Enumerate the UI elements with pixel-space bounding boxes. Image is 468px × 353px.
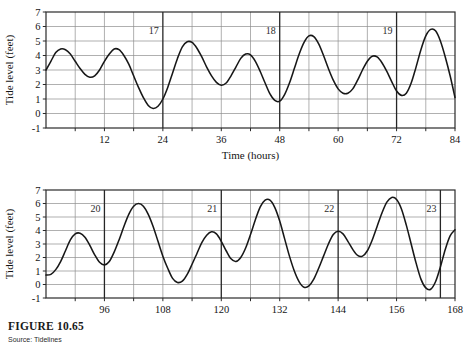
x-tick-label: 12 [99, 134, 110, 145]
x-tick-label: 84 [450, 134, 461, 145]
tide-chart-bottom: -1012345679610812013214415616820212223Ti… [0, 176, 468, 316]
y-tick-label: 6 [35, 198, 40, 209]
y-tick-label: 6 [35, 21, 40, 32]
figure-number: FIGURE 10.65 [8, 320, 308, 333]
day-marker-label: 17 [149, 25, 159, 36]
y-tick-label: -1 [32, 293, 41, 304]
day-marker-label: 19 [383, 25, 393, 36]
x-tick-label: 48 [274, 134, 285, 145]
day-marker-label: 20 [90, 203, 100, 214]
x-tick-label: 36 [216, 134, 227, 145]
day-marker-label: 23 [426, 203, 436, 214]
x-tick-label: 96 [99, 304, 110, 315]
tide-chart-top: -10123456712243648607284171819Tide level… [0, 0, 468, 162]
x-tick-label: 132 [272, 304, 288, 315]
y-tick-label: -1 [32, 123, 41, 134]
y-tick-label: 3 [35, 65, 40, 76]
y-tick-label: 0 [35, 108, 40, 119]
y-tick-label: 0 [35, 279, 40, 290]
x-tick-label: 108 [155, 304, 171, 315]
y-tick-label: 3 [35, 239, 40, 250]
x-axis-ticks: 12243648607284 [75, 128, 461, 145]
y-axis-title: Tide level (feet) [3, 34, 16, 105]
x-tick-label: 144 [330, 304, 347, 315]
x-axis-ticks: 96108120132144156168 [75, 298, 463, 315]
y-tick-label: 4 [35, 50, 41, 61]
day-marker-label: 21 [207, 203, 217, 214]
figure-caption: FIGURE 10.65 Source: Tidelines [8, 320, 308, 344]
x-tick-label: 120 [213, 304, 229, 315]
grid-lines [46, 12, 455, 128]
day-marker-label: 22 [324, 203, 334, 214]
tide-chart-top-plot: -10123456712243648607284171819Tide level… [0, 0, 468, 162]
y-axis-ticks: -101234567 [32, 185, 46, 304]
y-tick-label: 2 [35, 252, 40, 263]
y-tick-label: 1 [35, 94, 40, 105]
day-marker-label: 18 [266, 25, 276, 36]
x-tick-label: 156 [389, 304, 405, 315]
y-tick-label: 1 [35, 266, 40, 277]
y-axis-title: Tide level (feet) [3, 208, 16, 279]
y-tick-label: 5 [35, 36, 40, 47]
x-axis-title: Time (hours) [222, 149, 280, 162]
y-tick-label: 7 [35, 7, 40, 18]
figure-container: -10123456712243648607284171819Tide level… [0, 0, 468, 353]
y-tick-label: 5 [35, 212, 40, 223]
y-tick-label: 7 [35, 185, 40, 196]
y-axis-ticks: -101234567 [32, 7, 46, 134]
x-tick-label: 168 [447, 304, 463, 315]
x-tick-label: 60 [333, 134, 344, 145]
grid-lines [46, 190, 455, 298]
tide-chart-bottom-plot: -1012345679610812013214415616820212223Ti… [0, 176, 468, 316]
y-tick-label: 4 [35, 225, 41, 236]
x-tick-label: 72 [391, 134, 402, 145]
figure-source: Source: Tidelines [8, 335, 308, 344]
x-tick-label: 24 [158, 134, 169, 145]
y-tick-label: 2 [35, 79, 40, 90]
